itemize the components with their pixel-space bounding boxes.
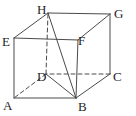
vertex-label-a: A — [3, 99, 12, 112]
diagonal-H-B — [48, 13, 76, 98]
vertex-label-g: G — [114, 7, 123, 20]
diagonal-D-B — [46, 74, 76, 98]
edge-E-F — [14, 38, 78, 40]
vertex-label-h: H — [37, 3, 46, 16]
vertex-label-f: F — [78, 34, 85, 47]
edge-G-H — [48, 13, 110, 14]
vertex-label-e: E — [2, 35, 10, 48]
vertex-label-b: B — [78, 100, 87, 113]
cube-figure: ABCDEFGH — [0, 0, 136, 116]
edge-B-F — [76, 40, 78, 98]
vertex-label-c: C — [113, 70, 122, 83]
vertex-label-d: D — [37, 70, 46, 83]
cube-diagonal-layer — [46, 13, 76, 98]
edge-B-C — [76, 74, 110, 98]
edge-D-H — [46, 13, 48, 74]
